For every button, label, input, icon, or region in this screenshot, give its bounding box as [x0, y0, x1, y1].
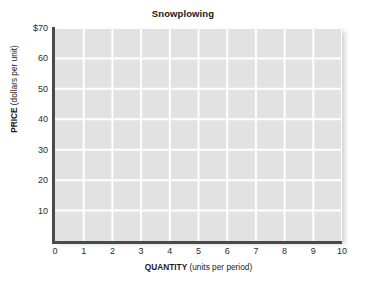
x-tick-label: 7 — [253, 246, 258, 256]
x-axis-title-bold: QUANTITY — [145, 262, 187, 272]
y-tick-label: 20 — [0, 175, 48, 185]
x-tick-label: 6 — [225, 246, 230, 256]
plot-wrapper — [55, 28, 342, 241]
x-tick-label: 10 — [337, 246, 347, 256]
x-tick-label: 8 — [282, 246, 287, 256]
x-tick-label: 3 — [139, 246, 144, 256]
y-axis-line — [52, 27, 55, 243]
y-tick-label: $70 — [0, 23, 48, 33]
x-axis-tick-labels: 012345678910 — [55, 246, 342, 260]
y-tick-label: 10 — [0, 206, 48, 216]
y-tick-label: 50 — [0, 84, 48, 94]
x-axis-title: QUANTITY (units per period) — [55, 262, 342, 272]
y-axis-title-rest: (dollars per unit) — [9, 45, 19, 107]
y-tick-label: 60 — [0, 53, 48, 63]
plot-area — [55, 28, 342, 241]
y-axis-title-bold: PRICE — [9, 107, 19, 132]
y-tick-label: 40 — [0, 114, 48, 124]
y-axis-tick-labels: 102030405060$70 — [0, 28, 48, 241]
y-tick-label: 30 — [0, 145, 48, 155]
x-axis-title-rest: (units per period) — [187, 262, 252, 272]
x-tick-label: 0 — [52, 246, 57, 256]
x-axis-line — [52, 241, 342, 244]
gridlines — [55, 28, 342, 241]
x-tick-label: 1 — [81, 246, 86, 256]
x-tick-label: 5 — [196, 246, 201, 256]
y-axis-title: PRICE (dollars per unit) — [9, 29, 19, 149]
x-tick-label: 2 — [110, 246, 115, 256]
chart-title: Snowplowing — [0, 8, 366, 19]
x-tick-label: 4 — [167, 246, 172, 256]
x-tick-label: 9 — [311, 246, 316, 256]
